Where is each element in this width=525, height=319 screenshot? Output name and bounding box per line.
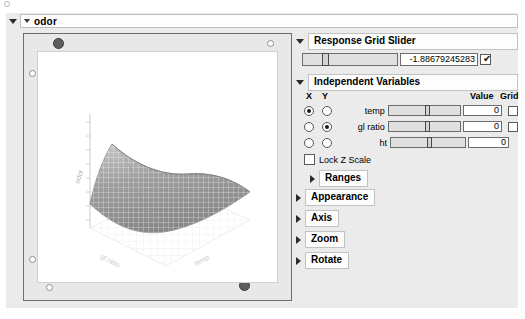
response-grid-slider-row: -1.88679245283 (302, 52, 518, 67)
variable-row-ht: ht 0 (302, 136, 518, 149)
page-title: odor (34, 16, 57, 27)
lock-z-scale-checkbox[interactable] (304, 154, 315, 165)
variable-name-temp: temp (332, 106, 388, 116)
variable-value-temp[interactable]: 0 (463, 105, 502, 116)
z-axis-label: odor (73, 168, 84, 184)
section-zoom[interactable]: Zoom (296, 231, 345, 248)
lock-z-scale-row[interactable]: Lock Z Scale (304, 154, 371, 165)
grid-checkbox-gl-ratio[interactable] (508, 122, 518, 132)
stray-marker-dot (4, 1, 10, 7)
variable-row-temp: temp 0 (302, 104, 518, 117)
appearance-disclosure-icon[interactable] (296, 194, 301, 202)
response-grid-slider-thumb[interactable] (322, 53, 329, 66)
section-ranges[interactable]: Ranges (310, 170, 368, 187)
window-frame: odor (6, 13, 518, 308)
response-grid-slider-disclosure-icon[interactable] (296, 39, 304, 44)
resize-handle-top-right[interactable] (267, 40, 274, 47)
column-header-y: Y (322, 91, 328, 101)
variable-slider-gl-ratio[interactable] (388, 121, 461, 132)
independent-variables-column-headers: X Y Value Grid (302, 91, 518, 102)
zoom-disclosure-icon[interactable] (296, 236, 301, 244)
axis-disclosure-icon[interactable] (296, 215, 301, 223)
column-header-value: Value (470, 91, 494, 101)
column-header-grid: Grid (500, 91, 519, 101)
z-axis-ticks (86, 122, 90, 220)
ranges-disclosure-icon[interactable] (310, 175, 315, 183)
plot-canvas[interactable]: odor gl ratio temp (37, 51, 278, 283)
y-axis-label: temp (193, 253, 211, 267)
radio-y-gl-ratio[interactable] (322, 122, 332, 132)
rotate-disclosure-icon[interactable] (296, 257, 301, 265)
x-axis-label: gl ratio (99, 253, 121, 270)
resize-handle-left[interactable] (29, 70, 36, 77)
variable-row-gl-ratio: gl ratio 0 (302, 120, 518, 133)
independent-variables-disclosure-icon[interactable] (296, 80, 304, 85)
radio-y-temp[interactable] (322, 106, 332, 116)
response-grid-slider-title: Response Grid Slider (308, 33, 518, 50)
radio-y-ht[interactable] (322, 138, 332, 148)
section-appearance[interactable]: Appearance (296, 189, 375, 206)
variable-name-ht: ht (332, 138, 390, 148)
plot-pane: odor gl ratio temp (23, 33, 292, 301)
section-independent-variables[interactable]: Independent Variables (296, 74, 518, 91)
control-panel: Response Grid Slider -1.88679245283 Inde… (296, 33, 518, 301)
appearance-label: Appearance (305, 189, 375, 206)
variable-value-gl-ratio[interactable]: 0 (463, 121, 502, 132)
title-dropdown-icon[interactable] (24, 19, 30, 23)
resize-handle-bottom[interactable] (46, 284, 53, 291)
column-header-x: X (306, 91, 312, 101)
variable-value-ht[interactable]: 0 (468, 137, 509, 148)
resize-handle-top[interactable] (53, 38, 64, 49)
ranges-label: Ranges (319, 170, 368, 187)
surface-plot-window: odor (0, 0, 525, 319)
lock-z-scale-label: Lock Z Scale (319, 155, 371, 165)
section-response-grid-slider[interactable]: Response Grid Slider (296, 33, 518, 50)
axis-label: Axis (305, 210, 339, 227)
radio-x-temp[interactable] (304, 106, 314, 116)
variable-slider-ht[interactable] (390, 137, 466, 148)
title-bar: odor (6, 13, 518, 29)
window-disclosure-triangle-icon[interactable] (9, 19, 17, 24)
radio-x-gl-ratio[interactable] (304, 122, 314, 132)
section-rotate[interactable]: Rotate (296, 252, 349, 269)
rotate-label: Rotate (305, 252, 349, 269)
response-grid-slider-checkbox[interactable] (480, 54, 491, 65)
section-axis[interactable]: Axis (296, 210, 339, 227)
variable-name-gl-ratio: gl ratio (332, 122, 388, 132)
surface-plot-3d: odor gl ratio temp (38, 52, 277, 282)
response-grid-slider-value[interactable]: -1.88679245283 (400, 53, 478, 66)
radio-x-ht[interactable] (304, 138, 314, 148)
variable-slider-temp[interactable] (388, 105, 461, 116)
independent-variables-title: Independent Variables (308, 74, 518, 91)
resize-handle-bottom-left[interactable] (29, 256, 36, 263)
zoom-label: Zoom (305, 231, 345, 248)
title-box[interactable]: odor (20, 14, 518, 28)
grid-checkbox-temp[interactable] (508, 106, 518, 116)
response-grid-slider-track[interactable] (302, 53, 398, 66)
